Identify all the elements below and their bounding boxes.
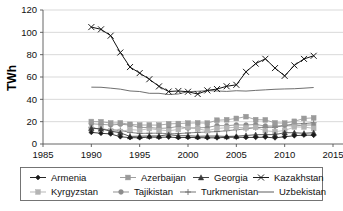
- y-tick-label: 60: [26, 71, 37, 82]
- legend-item-kyrgyzstan[interactable]: Kyrgyzstan: [30, 186, 98, 197]
- data-point-marker: [176, 127, 181, 132]
- chart-canvas: 020406080100120 198519901995200020052010…: [0, 0, 343, 211]
- data-point-marker: [282, 121, 287, 126]
- data-point-marker: [253, 125, 258, 130]
- legend-label: Turkmenistan: [201, 186, 258, 197]
- data-point-marker: [108, 33, 114, 39]
- legend-label: Kyrgyzstan: [51, 186, 98, 197]
- data-point-marker: [224, 125, 229, 130]
- x-axis-tick-labels: 1985199019952000200520102015: [32, 149, 343, 160]
- data-point-marker: [108, 121, 113, 126]
- x-tick-label: 1990: [81, 149, 102, 160]
- legend-item-armenia[interactable]: Armenia: [30, 172, 87, 183]
- data-point-marker: [147, 135, 152, 140]
- data-point-marker: [186, 121, 191, 126]
- data-point-marker: [89, 119, 94, 124]
- series-line: [91, 27, 313, 94]
- data-point-marker: [282, 73, 288, 79]
- data-point-marker: [253, 61, 259, 67]
- legend-marker-swatch: [185, 189, 191, 195]
- data-point-marker: [215, 118, 220, 123]
- legend-item-turkmenistan[interactable]: Turkmenistan: [180, 186, 258, 197]
- y-tick-label: 100: [21, 27, 37, 38]
- x-tick-label: 2000: [177, 149, 198, 160]
- legend-label: Uzbekistan: [279, 186, 326, 197]
- x-tick-label: 2010: [274, 149, 295, 160]
- legend-marker-swatch: [126, 175, 131, 180]
- data-point-marker: [157, 123, 162, 128]
- data-series: [88, 24, 316, 140]
- data-point-marker: [272, 65, 278, 71]
- series-line: [91, 124, 313, 129]
- y-tick-label: 80: [26, 49, 37, 60]
- series-line: [91, 87, 313, 94]
- series-kazakhstan: [88, 24, 316, 97]
- data-point-marker: [234, 125, 239, 130]
- data-point-marker: [195, 126, 200, 131]
- y-tick-label: 0: [32, 138, 37, 149]
- legend-label: Georgia: [214, 172, 249, 183]
- legend-item-kazakhstan[interactable]: Kazakhstan: [253, 172, 324, 183]
- data-point-marker: [205, 121, 210, 126]
- data-point-marker: [244, 114, 249, 119]
- data-point-marker: [234, 116, 239, 121]
- legend-label: Tajikistan: [134, 186, 173, 197]
- x-tick-label: 2005: [226, 149, 247, 160]
- data-point-marker: [137, 70, 143, 76]
- data-point-marker: [291, 62, 297, 68]
- data-point-marker: [273, 120, 278, 125]
- data-point-marker: [99, 131, 104, 136]
- legend-item-uzbekistan[interactable]: Uzbekistan: [258, 186, 326, 197]
- data-point-marker: [311, 115, 316, 120]
- data-point-marker: [166, 122, 171, 127]
- y-tick-label: 40: [26, 94, 37, 105]
- legend-marker-swatch: [36, 175, 41, 180]
- data-point-marker: [137, 123, 142, 128]
- data-point-marker: [244, 125, 249, 130]
- data-point-marker: [137, 128, 142, 133]
- data-point-marker: [292, 119, 297, 124]
- data-point-marker: [205, 128, 210, 133]
- data-point-marker: [224, 117, 229, 122]
- legend: ArmeniaAzerbaijanGeorgiaKazakhstanKyrgyz…: [30, 172, 326, 198]
- legend-label: Armenia: [51, 172, 87, 183]
- legend-item-georgia[interactable]: Georgia: [193, 172, 249, 183]
- legend-item-tajikistan[interactable]: Tajikistan: [113, 186, 173, 197]
- x-tick-label: 1995: [129, 149, 150, 160]
- data-point-marker: [99, 119, 104, 124]
- data-point-marker: [292, 125, 297, 130]
- data-point-marker: [311, 53, 317, 59]
- line-chart-figure: 020406080100120 198519901995200020052010…: [0, 0, 343, 211]
- data-point-marker: [263, 124, 268, 129]
- data-point-marker: [156, 83, 162, 89]
- series-uzbekistan: [91, 87, 313, 94]
- data-point-marker: [243, 69, 249, 75]
- data-point-marker: [128, 127, 133, 132]
- data-point-marker: [195, 120, 200, 125]
- data-point-marker: [176, 121, 181, 126]
- x-tick-label: 1985: [32, 149, 53, 160]
- legend-marker-swatch: [36, 190, 41, 195]
- series-line: [91, 117, 313, 125]
- data-point-marker: [301, 56, 307, 62]
- legend-marker-swatch: [119, 190, 124, 195]
- data-point-marker: [302, 116, 307, 121]
- data-point-marker: [127, 64, 133, 70]
- data-point-marker: [215, 126, 220, 131]
- legend-label: Azerbaijan: [141, 172, 186, 183]
- data-point-marker: [118, 120, 123, 125]
- data-point-marker: [302, 125, 307, 130]
- data-point-marker: [234, 135, 239, 140]
- y-axis-tick-labels: 020406080100120: [21, 4, 37, 149]
- data-point-marker: [262, 56, 268, 62]
- data-point-marker: [253, 117, 258, 122]
- data-point-marker: [128, 122, 133, 127]
- legend-item-azerbaijan[interactable]: Azerbaijan: [120, 172, 186, 183]
- y-tick-label: 20: [26, 116, 37, 127]
- data-point-marker: [157, 128, 162, 133]
- y-axis-label: TWh: [5, 65, 19, 91]
- legend-label: Kazakhstan: [274, 172, 324, 183]
- y-tick-label: 120: [21, 4, 37, 15]
- x-tick-label: 2015: [322, 149, 343, 160]
- axes: [43, 10, 343, 147]
